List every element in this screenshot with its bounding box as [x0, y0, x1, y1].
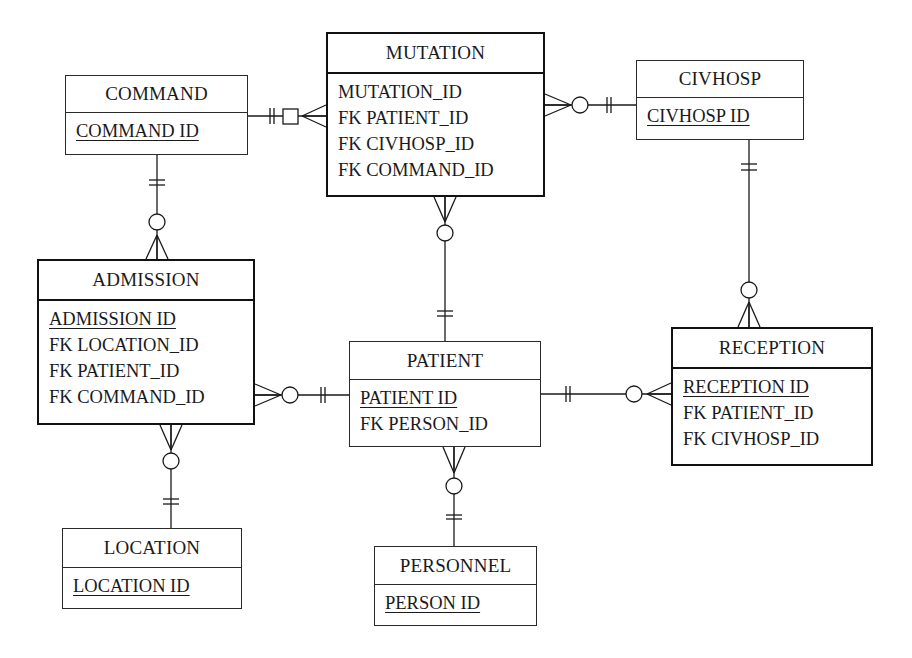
attribute: FK COMMAND_ID [338, 157, 543, 183]
entity-title: MUTATION [328, 34, 543, 74]
optional-circle-icon [163, 453, 179, 469]
attribute: FK PERSON_ID [360, 411, 540, 437]
entity-admission[interactable]: ADMISSION ADMISSION IDFK LOCATION_IDFK P… [37, 259, 255, 425]
primary-key-attribute: CIVHOSP ID [647, 103, 803, 129]
entity-location[interactable]: LOCATION LOCATION ID [62, 528, 242, 609]
crows-foot-icon [171, 425, 182, 450]
entity-patient[interactable]: PATIENT PATIENT IDFK PERSON_ID [349, 341, 541, 447]
optional-circle-icon [741, 282, 757, 298]
attribute: FK LOCATION_ID [49, 332, 253, 358]
crows-foot-icon [302, 105, 326, 116]
entity-attributes: CIVHOSP ID [637, 98, 803, 129]
optional-circle-icon [572, 97, 588, 113]
crows-foot-icon [157, 235, 168, 259]
attribute: FK CIVHOSP_ID [683, 426, 871, 452]
crows-foot-icon [647, 383, 671, 394]
optional-square-icon [283, 109, 298, 124]
entity-mutation[interactable]: MUTATION MUTATION_IDFK PATIENT_IDFK CIVH… [326, 32, 545, 197]
attribute: FK PATIENT_ID [49, 358, 253, 384]
entity-title: COMMAND [66, 76, 247, 113]
entity-title: PATIENT [350, 342, 540, 380]
crows-foot-icon [545, 94, 571, 105]
crows-foot-icon [647, 394, 671, 405]
crows-foot-icon [443, 447, 454, 473]
crows-foot-icon [749, 302, 760, 327]
entity-title: LOCATION [63, 529, 241, 568]
attribute: FK PATIENT_ID [683, 400, 871, 426]
entity-reception[interactable]: RECEPTION RECEPTION IDFK PATIENT_IDFK CI… [671, 327, 873, 466]
entity-title: ADMISSION [39, 261, 253, 301]
primary-key-attribute: LOCATION ID [73, 573, 241, 599]
entity-personnel[interactable]: PERSONNEL PERSON ID [374, 546, 537, 626]
attribute: MUTATION_ID [338, 79, 543, 105]
crows-foot-icon [738, 302, 749, 327]
crows-foot-icon [454, 447, 465, 473]
crows-foot-icon [255, 384, 281, 395]
primary-key-attribute: ADMISSION ID [49, 306, 253, 332]
crows-foot-icon [445, 197, 456, 222]
primary-key-attribute: COMMAND ID [76, 118, 247, 144]
optional-circle-icon [626, 386, 642, 402]
entity-attributes: COMMAND ID [66, 113, 247, 144]
attribute: FK PATIENT_ID [338, 105, 543, 131]
entity-title: PERSONNEL [375, 547, 536, 585]
entity-attributes: PATIENT IDFK PERSON_ID [350, 380, 540, 437]
attribute: FK CIVHOSP_ID [338, 131, 543, 157]
entity-title: CIVHOSP [637, 61, 803, 98]
crows-foot-icon [434, 197, 445, 222]
entity-attributes: PERSON ID [375, 585, 536, 616]
optional-circle-icon [446, 478, 462, 494]
optional-circle-icon [437, 225, 453, 241]
entity-attributes: MUTATION_IDFK PATIENT_IDFK CIVHOSP_IDFK … [328, 74, 543, 183]
crows-foot-icon [545, 105, 571, 116]
entity-title: RECEPTION [673, 329, 871, 369]
optional-circle-icon [149, 214, 165, 230]
entity-command[interactable]: COMMAND COMMAND ID [65, 75, 248, 155]
entity-attributes: ADMISSION IDFK LOCATION_IDFK PATIENT_IDF… [39, 301, 253, 410]
attribute: FK COMMAND_ID [49, 384, 253, 410]
primary-key-attribute: RECEPTION ID [683, 374, 871, 400]
crows-foot-icon [255, 395, 281, 406]
primary-key-attribute: PATIENT ID [360, 385, 540, 411]
er-diagram: COMMAND COMMAND ID MUTATION MUTATION_IDF… [0, 0, 912, 658]
optional-circle-icon [282, 387, 298, 403]
entity-attributes: RECEPTION IDFK PATIENT_IDFK CIVHOSP_ID [673, 369, 871, 452]
entity-civhosp[interactable]: CIVHOSP CIVHOSP ID [636, 60, 804, 140]
entity-attributes: LOCATION ID [63, 568, 241, 599]
primary-key-attribute: PERSON ID [385, 590, 536, 616]
crows-foot-icon [160, 425, 171, 450]
crows-foot-icon [146, 235, 157, 259]
crows-foot-icon [302, 116, 326, 127]
